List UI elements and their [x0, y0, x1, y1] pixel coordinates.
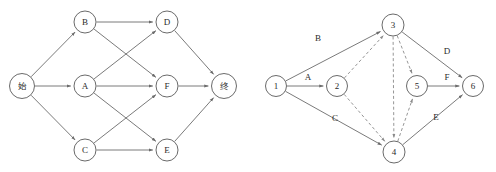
graph-node-D[interactable]: D — [156, 11, 178, 33]
node-label-2: 2 — [335, 81, 340, 91]
graph-edge-4-to-5 — [398, 99, 413, 141]
figure-canvas: 始BDAF终CE123456 ABCDEF — [0, 0, 496, 172]
node-label-C: C — [82, 145, 88, 155]
graph-node-3[interactable]: 3 — [382, 14, 404, 36]
graph-edge-3-to-5 — [397, 36, 412, 74]
node-label-5: 5 — [415, 81, 420, 91]
graph-edge-D-to-end — [175, 31, 214, 75]
graph-edge-start-to-B — [31, 32, 75, 77]
node-label-F: F — [164, 81, 169, 91]
node-label-E: E — [164, 145, 170, 155]
nodes-layer: 始BDAF终CE123456 — [10, 11, 484, 163]
graph-edge-start-to-C — [31, 95, 75, 140]
node-label-1: 1 — [274, 81, 279, 91]
graph-edge-3-to-4 — [393, 37, 394, 138]
graph-edge-3-to-6 — [402, 32, 462, 78]
graph-node-5[interactable]: 5 — [407, 76, 428, 97]
edge-label-a: A — [305, 72, 312, 82]
edge-labels-layer: ABCDEF — [305, 33, 451, 123]
graph-node-6[interactable]: 6 — [463, 76, 484, 97]
node-label-end: 终 — [220, 81, 229, 91]
graph-figure: 始BDAF终CE123456 ABCDEF — [0, 0, 496, 172]
graph-edge-2-to-4 — [344, 94, 385, 141]
edge-label-e: E — [433, 112, 439, 122]
graph-node-C[interactable]: C — [74, 139, 96, 161]
graph-node-4[interactable]: 4 — [383, 141, 405, 163]
node-label-A: A — [82, 81, 89, 91]
graph-edge-A-to-E — [94, 93, 156, 141]
edge-label-c: C — [332, 113, 338, 123]
node-label-start: 始 — [18, 81, 27, 91]
graph-edge-E-to-end — [175, 98, 214, 142]
graph-node-2[interactable]: 2 — [327, 76, 348, 97]
edge-label-f: F — [444, 72, 449, 82]
graph-edge-1-to-3 — [286, 32, 381, 81]
graph-node-A[interactable]: A — [74, 75, 96, 97]
graph-node-F[interactable]: F — [156, 75, 178, 97]
graph-node-B[interactable]: B — [74, 11, 96, 33]
graph-edge-B-to-F — [94, 29, 156, 77]
node-label-B: B — [82, 17, 88, 27]
graph-edge-A-to-D — [94, 31, 156, 79]
graph-node-1[interactable]: 1 — [266, 76, 287, 97]
graph-edge-C-to-F — [94, 95, 156, 143]
node-label-6: 6 — [471, 81, 476, 91]
graph-node-end[interactable]: 终 — [212, 74, 237, 99]
node-label-3: 3 — [391, 20, 396, 30]
graph-node-E[interactable]: E — [156, 139, 178, 161]
node-label-D: D — [164, 17, 171, 27]
graph-node-start[interactable]: 始 — [10, 74, 35, 99]
graph-edge-2-to-3 — [344, 35, 383, 77]
edge-label-d: D — [444, 46, 451, 56]
edge-label-b: B — [315, 33, 321, 43]
node-label-4: 4 — [392, 147, 397, 157]
